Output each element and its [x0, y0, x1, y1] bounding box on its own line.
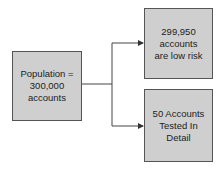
population-line-2: 300,000	[30, 80, 64, 92]
tested-line-2: Tested In	[159, 120, 198, 132]
population-line-1: Population =	[20, 68, 73, 80]
tested-line-3: Detail	[166, 132, 190, 144]
low-risk-line-3: are low risk	[154, 50, 202, 62]
low-risk-line-2: accounts	[159, 38, 197, 50]
tested-line-1: 50 Accounts	[153, 108, 205, 120]
low-risk-node: 299,950 accounts are low risk	[144, 8, 213, 79]
population-node: Population = 300,000 accounts	[12, 51, 82, 121]
tested-node: 50 Accounts Tested In Detail	[144, 89, 213, 162]
population-line-3: accounts	[28, 92, 66, 104]
low-risk-line-1: 299,950	[161, 26, 195, 38]
